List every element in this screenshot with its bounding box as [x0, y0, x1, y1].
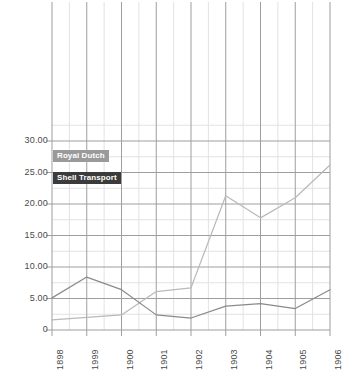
x-axis-tick-label: 1906 [334, 349, 343, 370]
x-axis-tick-label: 1903 [230, 349, 239, 370]
x-axis-tick-label: 1999 [91, 349, 100, 370]
x-axis-tick-label: 1900 [126, 349, 135, 370]
x-axis-tick-label: 1898 [56, 349, 65, 370]
legend-item-royal-dutch: Royal Dutch [53, 150, 109, 162]
legend-item-shell-transport: Shell Transport [53, 172, 121, 184]
x-axis-tick-label: 1901 [160, 349, 169, 370]
x-axis-tick-label: 1902 [195, 349, 204, 370]
x-axis-tick-label: 1904 [265, 349, 274, 370]
x-axis-tick-label: 1905 [299, 349, 308, 370]
